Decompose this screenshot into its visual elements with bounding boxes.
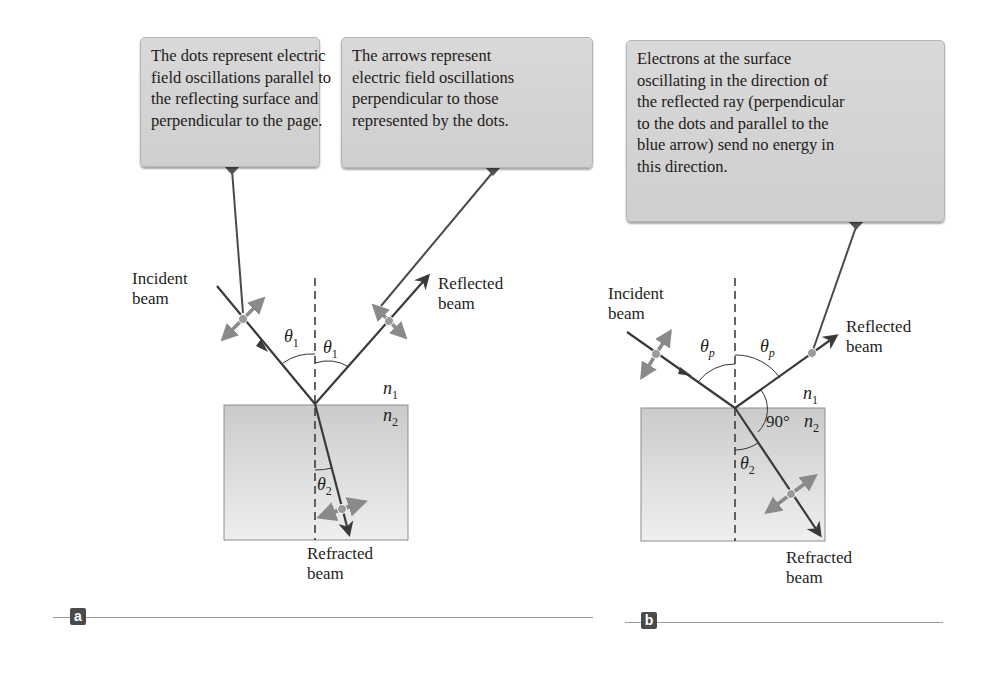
medium-n2-block-a xyxy=(224,405,408,540)
callout-brewster-explanation: Electrons at the surface oscillating in … xyxy=(626,40,945,222)
subscript: p xyxy=(709,346,715,360)
right-angle-label: 90° xyxy=(766,412,790,432)
callout-line: to the dots and parallel to the xyxy=(637,113,934,135)
subscript: 1 xyxy=(332,347,338,361)
subscript: 1 xyxy=(812,393,818,407)
label-line: Reflected xyxy=(438,274,503,294)
reflected-beam-label-b: Reflected beam xyxy=(846,317,911,357)
panel-b-graphics xyxy=(627,221,864,541)
incident-beam-label-b: Incident beam xyxy=(608,284,664,324)
panel-a-graphics xyxy=(217,166,501,540)
symbol: θ xyxy=(700,336,709,356)
subscript: 1 xyxy=(293,336,299,350)
callout-line: the reflected ray (perpendicular xyxy=(637,91,934,113)
theta-p-reflected-label: θp xyxy=(760,336,775,361)
subscript: 2 xyxy=(392,415,398,429)
callout-line: perpendicular to those xyxy=(352,88,582,110)
symbol: θ xyxy=(323,337,332,357)
n1-label-b: n1 xyxy=(803,383,818,408)
label-line: Incident xyxy=(608,284,664,304)
subscript: p xyxy=(769,346,775,360)
callout-line: The arrows represent xyxy=(352,45,582,67)
label-line: Refracted xyxy=(307,544,373,564)
label-line: beam xyxy=(608,304,664,324)
refracted-beam-label-a: Refracted beam xyxy=(307,544,373,584)
label-line: Refracted xyxy=(786,548,852,568)
callout-pointer-left xyxy=(224,166,240,175)
callout-line: electric field oscillations xyxy=(352,67,582,89)
symbol: θ xyxy=(317,474,326,494)
incident-direction-arrowhead-b xyxy=(678,367,692,376)
n2-label-b: n2 xyxy=(804,411,819,436)
theta-1-reflected-label: θ1 xyxy=(323,337,338,362)
medium-n2-block-b xyxy=(641,408,825,541)
refracted-beam-label-b: Refracted beam xyxy=(786,548,852,588)
incident-beam-label-a: Incident beam xyxy=(132,269,188,309)
subscript: 2 xyxy=(326,484,332,498)
n1-label-a: n1 xyxy=(383,378,398,403)
symbol: θ xyxy=(284,326,293,346)
angle-arc-incident-a xyxy=(283,354,315,363)
theta-2-refracted-label-b: θ2 xyxy=(740,453,755,478)
callout-leader-left xyxy=(232,170,243,313)
incident-ray-a xyxy=(217,286,315,404)
callout-arrows-explanation: The arrows represent electric field osci… xyxy=(341,37,593,168)
callout-line: represented by the dots. xyxy=(352,110,582,132)
symbol: n xyxy=(804,411,813,431)
panel-a-rule xyxy=(53,617,593,618)
label-line: beam xyxy=(132,289,188,309)
callout-pointer-b xyxy=(848,221,864,230)
theta-2-refracted-label: θ2 xyxy=(317,474,332,499)
label-line: Reflected xyxy=(846,317,911,337)
label-line: beam xyxy=(786,568,852,588)
symbol: n xyxy=(383,378,392,398)
subscript: 1 xyxy=(392,388,398,402)
panel-b-rule xyxy=(625,622,943,623)
callout-line: The dots represent electric xyxy=(151,45,309,67)
n2-label-a: n2 xyxy=(383,405,398,430)
label-line: Incident xyxy=(132,269,188,289)
polarization-symbol-incident-b xyxy=(642,332,670,377)
angle-arc-reflected-a xyxy=(315,361,349,367)
label-line: beam xyxy=(846,337,911,357)
reflected-beam-label-a: Reflected beam xyxy=(438,274,503,314)
symbol: θ xyxy=(760,336,769,356)
subscript: 2 xyxy=(813,421,819,435)
label-line: beam xyxy=(438,294,503,314)
callout-line: the reflecting surface and xyxy=(151,88,309,110)
callout-line: oscillating in the direction of xyxy=(637,70,934,92)
panel-b-tag: b xyxy=(641,612,657,629)
callout-line: Electrons at the surface xyxy=(637,48,934,70)
callout-dots-explanation: The dots represent electric field oscill… xyxy=(140,37,320,167)
reflected-ray-b xyxy=(735,336,836,408)
callout-line: this direction. xyxy=(637,156,934,178)
symbol: n xyxy=(803,383,812,403)
callout-line: field oscillations parallel to xyxy=(151,67,309,89)
theta-p-incident-label: θp xyxy=(700,336,715,361)
symbol: θ xyxy=(740,453,749,473)
polarization-dot-reflected-b xyxy=(808,349,817,358)
callout-line: blue arrow) send no energy in xyxy=(637,134,934,156)
label-line: beam xyxy=(307,564,373,584)
callout-line: perpendicular to the page. xyxy=(151,110,309,132)
panel-a-tag: a xyxy=(70,608,86,625)
symbol: n xyxy=(383,405,392,425)
subscript: 2 xyxy=(749,463,755,477)
angle-arc-incident-b xyxy=(698,364,735,382)
theta-1-incident-label: θ1 xyxy=(284,326,299,351)
callout-pointer-right xyxy=(485,167,501,176)
